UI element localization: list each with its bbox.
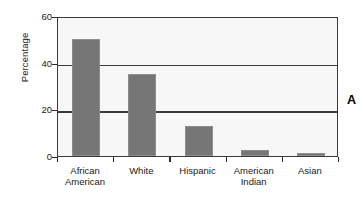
panel-letter-annotation: A	[347, 93, 356, 107]
y-tick-mark	[52, 110, 57, 111]
bar	[128, 74, 156, 156]
y-tick-mark	[52, 64, 57, 65]
y-tick-label: 40	[32, 59, 52, 69]
y-tick-mark	[52, 17, 57, 18]
y-tick-label: 20	[32, 105, 52, 115]
x-tick-mark	[169, 157, 170, 162]
y-tick-mark	[52, 157, 57, 158]
bar	[241, 150, 269, 156]
x-tick-label: Asian	[270, 165, 350, 176]
x-tick-mark	[113, 157, 114, 162]
bar-chart-figure: Percentage 0204060 African AmericanWhite…	[0, 0, 361, 204]
x-tick-mark	[226, 157, 227, 162]
y-tick-label: 0	[32, 152, 52, 162]
bar	[297, 153, 325, 156]
bar	[185, 126, 213, 156]
x-tick-mark	[57, 157, 58, 162]
bar	[72, 39, 100, 156]
y-tick-label: 60	[32, 12, 52, 22]
x-tick-mark	[338, 157, 339, 162]
plot-area	[57, 17, 338, 157]
x-tick-mark	[282, 157, 283, 162]
